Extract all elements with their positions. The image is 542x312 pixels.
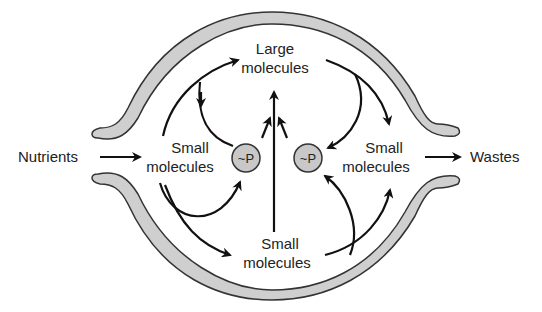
small-right-line1: Small (344, 139, 424, 157)
phosphate-left-label: ~P (238, 151, 254, 166)
large-molecules-line1: Large (250, 40, 300, 58)
small-left-line2: molecules (140, 158, 220, 176)
metabolism-diagram: ~P ~P Nutrients Wastes Large molecules S… (0, 0, 542, 312)
large-molecules-line2: molecules (235, 59, 315, 77)
phosphate-right-label: ~P (300, 151, 316, 166)
arrow-bottom-to-p-right (325, 176, 354, 255)
arrow-small-to-bottom (165, 185, 230, 255)
phosphate-left: ~P (232, 144, 260, 172)
arrow-large-to-small-right (326, 60, 389, 124)
small-right-line2: molecules (336, 158, 416, 176)
arrow-p-left-to-large (262, 118, 270, 138)
small-bottom-line2: molecules (237, 254, 317, 272)
small-left-line1: Small (150, 139, 230, 157)
arrow-large-to-p-right (328, 74, 361, 148)
small-bottom-line1: Small (240, 235, 320, 253)
nutrients-label: Nutrients (18, 148, 78, 166)
wastes-label: Wastes (470, 148, 519, 166)
phosphate-right: ~P (294, 144, 322, 172)
arrow-p-loop-left (199, 82, 233, 146)
arrow-p-right-to-large (279, 118, 287, 138)
